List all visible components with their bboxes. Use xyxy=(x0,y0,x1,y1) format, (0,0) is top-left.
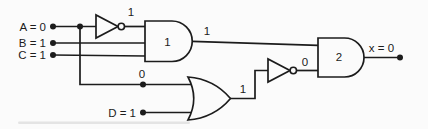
signal-not2-output: 0 xyxy=(302,56,308,68)
input-a-terminal xyxy=(50,24,56,30)
or1-body xyxy=(188,77,231,120)
scan-artifact xyxy=(18,122,190,125)
and-gate-2: 2 xyxy=(318,38,364,77)
input-d-terminal xyxy=(140,110,146,116)
not-gate-2 xyxy=(268,59,296,82)
not1-triangle xyxy=(96,15,118,38)
signal-or1-output: 1 xyxy=(240,83,246,95)
wire-and1-to-and2 xyxy=(192,41,318,45)
circuit-canvas: 1 2 A = 0 B = 1 C = 1 D = 1 xyxy=(0,0,428,129)
signal-a-branch: 0 xyxy=(139,68,145,80)
input-b-terminal xyxy=(50,40,56,46)
logic-circuit-diagram: 1 2 A = 0 B = 1 C = 1 D = 1 xyxy=(0,0,428,129)
output-terminal xyxy=(397,55,403,61)
not2-triangle xyxy=(268,59,290,82)
not1-bubble-icon xyxy=(118,23,124,29)
not-gate-1 xyxy=(96,15,125,38)
and1-label: 1 xyxy=(164,36,170,48)
branch-signal-dot xyxy=(140,82,146,88)
input-d-label: D = 1 xyxy=(108,107,136,119)
output-x-label: x = 0 xyxy=(369,42,394,54)
input-a-label: A = 0 xyxy=(19,21,46,33)
not2-bubble-icon xyxy=(290,67,296,73)
wire-or1-to-not2 xyxy=(230,71,268,99)
and-gate-1: 1 xyxy=(145,21,192,62)
input-c-label: C = 1 xyxy=(18,49,46,61)
branch-junction-dot xyxy=(77,24,83,30)
wire-input-c xyxy=(53,55,145,56)
signal-not1-output: 1 xyxy=(128,6,134,18)
input-b-label: B = 1 xyxy=(19,37,46,49)
and2-label: 2 xyxy=(336,51,342,63)
input-c-terminal xyxy=(50,52,56,58)
or-gate-1 xyxy=(188,77,231,120)
signal-and1-output: 1 xyxy=(204,25,210,37)
